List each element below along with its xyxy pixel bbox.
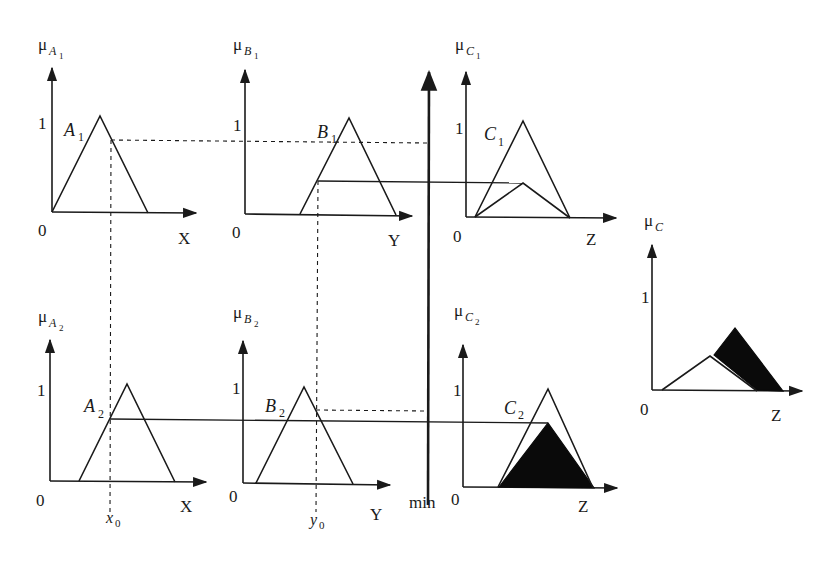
panel-a2: μ A 2 1 A 2 0 X x 0 [36,307,206,529]
y0-dashed-line [316,181,318,512]
c-aggregate-filled [714,328,783,391]
panel-c2: μ C 2 1 C 2 0 Z [451,301,617,516]
panel-a1: μ A 1 1 A 1 0 X [38,35,196,248]
c1-set-label: C [484,124,497,144]
b1-mu-sub: B [244,44,252,58]
b1-one-tick: 1 [233,116,242,135]
b1-mu-label: μ [233,35,242,54]
a1-x-label: X [178,229,190,248]
b1-set-index: 1 [331,132,337,146]
b1-x-axis [245,214,412,216]
x0-dashed-line [110,140,111,512]
min-operator-line [428,72,429,505]
c2-origin: 0 [451,490,460,509]
panel-c-aggregate: μ C 1 0 Z [640,211,802,425]
a2-x-label: X [180,497,192,516]
min-label: min [409,493,436,512]
b2-set-index: 2 [279,406,285,420]
c1-x-axis [466,217,616,218]
c1-mu-label: μ [455,35,464,54]
b1-mu-sub-index: 1 [254,51,259,61]
c1-mu-sub: C [466,44,475,58]
b1-y-label: Y [388,231,400,250]
c-mu-label: μ [644,211,653,230]
a1-mu-label: μ [38,35,47,54]
c2-mu-sub: C [465,310,474,324]
c1-origin: 0 [453,227,462,246]
y0-label: y [308,511,318,529]
c-origin: 0 [640,400,649,419]
c2-mu-label: μ [454,301,463,320]
b2-y-label: Y [370,505,382,524]
b2-mu-sub: B [244,312,252,326]
c2-set-index: 2 [518,408,524,422]
b2-origin: 0 [229,487,238,506]
c1-one-tick: 1 [455,119,464,138]
c2-z-label: Z [578,497,588,516]
b1-set-label: B [317,122,328,142]
a2-set-index: 2 [98,407,104,421]
c2-one-tick: 1 [453,381,462,400]
a2-set-label: A [83,396,96,416]
a1-set-label: A [63,120,76,140]
c-mu-sub: C [655,220,664,234]
b1-origin: 0 [232,223,241,242]
b2-one-tick: 1 [232,379,241,398]
fuzzy-inference-diagram: μ A 1 1 A 1 0 X μ B 1 1 B 1 0 Y μ C 1 1 … [0,0,829,563]
b1-membership-triangle [300,118,396,215]
a2-origin: 0 [36,491,45,510]
c-one-tick: 1 [641,288,650,307]
c1-set-index: 1 [498,135,504,149]
rule2-min-cut-line [110,419,548,423]
c1-z-label: Z [586,230,596,249]
c2-mu-sub-index: 2 [475,317,480,327]
connectors: min [110,72,548,512]
panel-b2: μ B 2 1 B 2 0 Y y 0 [229,303,390,531]
a2-mu-label: μ [38,307,47,326]
a1-x-axis [52,212,196,213]
c1-mu-sub-index: 1 [476,51,481,61]
a2-one-tick: 1 [37,381,46,400]
c2-set-label: C [504,398,517,418]
b2-mu-sub-index: 2 [254,319,259,329]
c-z-label: Z [771,406,781,425]
a1-degree-dashed [111,140,428,143]
a1-one-tick: 1 [38,114,47,133]
x0-sub: 0 [115,517,121,529]
a1-mu-sub: A [48,44,57,58]
a1-origin: 0 [38,221,47,240]
b2-degree-dashed [316,410,428,411]
y0-sub: 0 [319,519,325,531]
a1-mu-sub-index: 1 [59,51,64,61]
a2-x-axis [50,481,206,482]
x0-label: x [105,509,113,526]
b2-mu-label: μ [233,303,242,322]
a2-mu-sub-index: 2 [59,323,64,333]
panel-c1: μ C 1 1 C 1 0 Z [453,35,616,249]
b2-set-label: B [265,396,276,416]
b2-x-axis [243,483,390,485]
a1-set-index: 1 [78,130,84,144]
a2-mu-sub: A [48,316,57,330]
